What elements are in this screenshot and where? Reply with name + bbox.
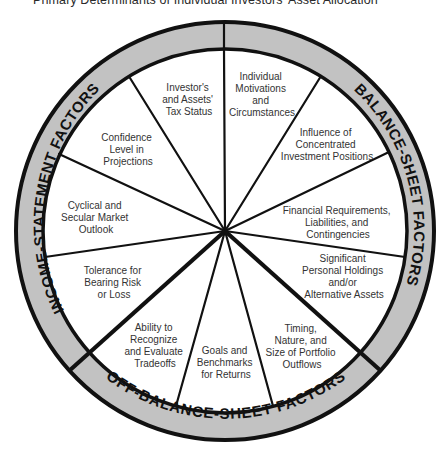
- segment-tax-status: Investor's and Assets' Tax Status: [162, 82, 216, 117]
- segment-goals: Goals and Benchmarks for Returns: [197, 345, 255, 380]
- asset-allocation-wheel: INCOME-STATEMENT FACTORS BALANCE-SHEET F…: [0, 0, 445, 451]
- spoke-top: [224, 49, 225, 231]
